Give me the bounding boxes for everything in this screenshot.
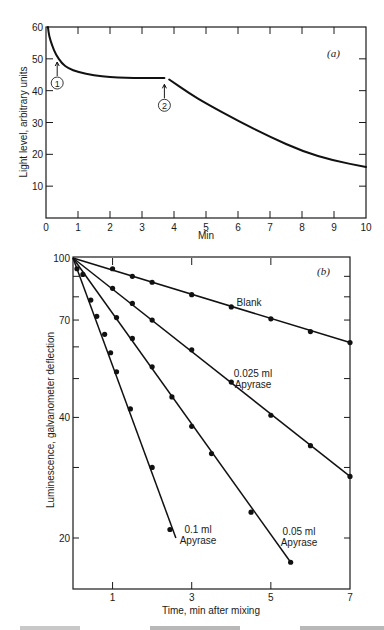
x-tick-label: 4 xyxy=(171,222,177,233)
x-tick-label: 3 xyxy=(139,222,145,233)
series-label: 0.1 ml xyxy=(184,524,211,535)
data-point xyxy=(288,560,293,565)
figure: 012345678910 102030405060 12 (a) Min Lig… xyxy=(0,0,384,630)
chart-a-panel-label: (a) xyxy=(327,47,340,60)
x-tick-label: 0 xyxy=(43,222,49,233)
light-level-curve xyxy=(169,80,366,168)
fit-line xyxy=(73,258,350,476)
data-point xyxy=(169,394,174,399)
data-point xyxy=(229,304,234,309)
y-tick-label: 100 xyxy=(53,253,70,264)
data-point xyxy=(347,474,352,479)
series-label: Apyrase xyxy=(235,379,272,390)
chart-a-light-level: 012345678910 102030405060 12 (a) Min Lig… xyxy=(18,22,372,241)
data-point xyxy=(130,301,135,306)
data-point xyxy=(108,350,113,355)
y-tick-label: 40 xyxy=(59,412,71,423)
series-label: 0.025 ml xyxy=(234,368,272,379)
data-point xyxy=(167,527,172,532)
x-tick-label: 3 xyxy=(189,592,195,603)
chart-b-luminescence: 1357 100704020 Blank0.025 mlApyrase0.05 … xyxy=(45,253,353,616)
data-point xyxy=(74,266,79,271)
data-point xyxy=(80,272,85,277)
data-point xyxy=(110,266,115,271)
cropped-caption-fragment xyxy=(20,626,384,630)
data-point xyxy=(189,424,194,429)
y-tick-label: 10 xyxy=(32,181,44,192)
chart-b-panel-label: (b) xyxy=(317,265,330,278)
data-point xyxy=(229,380,234,385)
y-tick-label: 40 xyxy=(32,86,44,97)
annotation-number: 1 xyxy=(55,79,60,89)
chart-a-x-axis: 012345678910 xyxy=(43,27,372,233)
y-tick-label: 30 xyxy=(32,118,44,129)
data-point xyxy=(268,316,273,321)
series-label: 0.05 ml xyxy=(283,526,316,537)
data-point xyxy=(209,451,214,456)
series-0-025-ml-apyrase xyxy=(73,258,353,479)
y-tick-label: 20 xyxy=(59,533,71,544)
data-point xyxy=(189,292,194,297)
x-tick-label: 5 xyxy=(268,592,274,603)
chart-b-series-labels: Blank0.025 mlApyrase0.05 mlApyrase0.1 ml… xyxy=(180,297,318,548)
chart-a-x-label: Min xyxy=(198,230,214,241)
annotation-number: 2 xyxy=(162,101,167,111)
y-tick-label: 50 xyxy=(32,54,44,65)
data-point xyxy=(102,332,107,337)
series-label: Blank xyxy=(236,297,262,308)
data-point xyxy=(150,465,155,470)
x-tick-label: 7 xyxy=(347,592,353,603)
data-point xyxy=(110,286,115,291)
x-tick-label: 8 xyxy=(299,222,305,233)
series-blank xyxy=(73,258,353,345)
data-point xyxy=(308,329,313,334)
data-point xyxy=(189,347,194,352)
x-tick-label: 1 xyxy=(75,222,81,233)
data-point xyxy=(150,317,155,322)
chart-a-y-label: Light level, arbitrary units xyxy=(18,66,29,177)
data-point xyxy=(130,274,135,279)
series-0-1-ml-apyrase xyxy=(73,258,176,538)
x-tick-label: 9 xyxy=(331,222,337,233)
chart-b-y-label: Luminescence, galvanometer deflection xyxy=(45,332,56,508)
y-tick-label: 60 xyxy=(32,22,44,33)
chart-a-y-axis: 102030405060 xyxy=(32,22,366,192)
fit-line xyxy=(73,258,350,343)
data-point xyxy=(130,336,135,341)
data-point xyxy=(88,298,93,303)
data-point xyxy=(268,413,273,418)
chart-a-plot-frame xyxy=(46,27,366,218)
x-tick-label: 10 xyxy=(360,222,372,233)
y-tick-label: 70 xyxy=(59,315,71,326)
data-point xyxy=(150,280,155,285)
y-tick-label: 20 xyxy=(32,149,44,160)
series-label: Apyrase xyxy=(180,535,217,546)
x-tick-label: 1 xyxy=(110,592,116,603)
data-point xyxy=(248,510,253,515)
data-point xyxy=(114,315,119,320)
x-tick-label: 6 xyxy=(235,222,241,233)
chart-b-x-axis: 1357 xyxy=(110,258,353,603)
data-point xyxy=(128,406,133,411)
series-label: Apyrase xyxy=(281,537,318,548)
x-tick-label: 2 xyxy=(107,222,113,233)
light-level-curve xyxy=(48,27,164,78)
chart-b-x-label: Time, min after mixing xyxy=(162,605,260,616)
data-point xyxy=(114,369,119,374)
x-tick-label: 7 xyxy=(267,222,273,233)
data-point xyxy=(94,314,99,319)
data-point xyxy=(347,340,352,345)
data-point xyxy=(150,364,155,369)
chart-b-series xyxy=(73,258,353,565)
chart-a-curves xyxy=(48,27,366,167)
data-point xyxy=(308,443,313,448)
